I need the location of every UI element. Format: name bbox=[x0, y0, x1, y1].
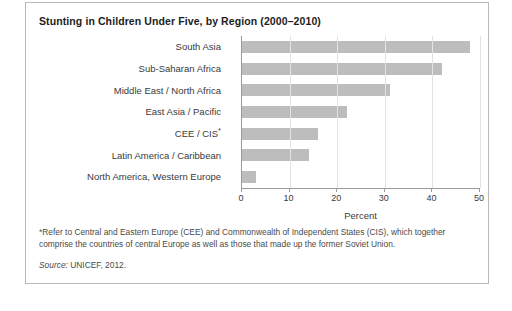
source-text: UNICEF, 2012. bbox=[70, 260, 126, 270]
category-label-cee-cis: CEE / CIS* bbox=[175, 128, 221, 139]
source-label: Source: bbox=[39, 260, 68, 270]
category-row: South Asia bbox=[39, 36, 228, 58]
x-axis-tick bbox=[431, 188, 432, 192]
source-line: Source: UNICEF, 2012. bbox=[39, 260, 469, 270]
category-row: Latin America / Caribbean bbox=[39, 144, 228, 166]
x-axis-tick-label: 50 bbox=[474, 193, 484, 203]
chart-title: Stunting in Children Under Five, by Regi… bbox=[39, 15, 321, 27]
bar-row bbox=[242, 144, 480, 166]
x-axis-title: Percent bbox=[241, 210, 480, 221]
x-axis-tick-label: 10 bbox=[284, 193, 294, 203]
footnote-text: *Refer to Central and Eastern Europe (CE… bbox=[39, 227, 469, 251]
category-label: East Asia / Pacific bbox=[145, 106, 221, 117]
bar-row bbox=[242, 79, 480, 101]
bar-row bbox=[242, 58, 480, 80]
category-label: Latin America / Caribbean bbox=[112, 150, 221, 161]
category-row: CEE / CIS* bbox=[39, 123, 228, 145]
bar-cee-cis bbox=[242, 128, 318, 140]
category-row: Sub-Saharan Africa bbox=[39, 58, 228, 80]
category-label: Middle East / North Africa bbox=[114, 85, 221, 96]
bar-sub-saharan-africa bbox=[242, 63, 442, 75]
x-axis-tick bbox=[479, 188, 480, 192]
category-row: North America, Western Europe bbox=[39, 166, 228, 188]
bar-row bbox=[242, 166, 480, 188]
notes-section: *Refer to Central and Eastern Europe (CE… bbox=[39, 227, 469, 270]
x-axis-tick bbox=[241, 188, 242, 192]
figure-container: Stunting in Children Under Five, by Regi… bbox=[25, 2, 489, 284]
bars-container bbox=[241, 36, 480, 188]
bar-middle-east-north-africa bbox=[242, 84, 390, 96]
bar-row bbox=[242, 123, 480, 145]
bar-row bbox=[242, 36, 480, 58]
x-axis-tick bbox=[289, 188, 290, 192]
gridline bbox=[480, 36, 481, 188]
x-axis-tick bbox=[336, 188, 337, 192]
category-row: Middle East / North Africa bbox=[39, 79, 228, 101]
x-axis-tick-label: 40 bbox=[426, 193, 436, 203]
bar-east-asia-pacific bbox=[242, 106, 347, 118]
bar-latin-america-caribbean bbox=[242, 149, 309, 161]
x-axis-tick-label: 30 bbox=[379, 193, 389, 203]
x-axis-tick bbox=[384, 188, 385, 192]
category-row: East Asia / Pacific bbox=[39, 101, 228, 123]
plot-area: South Asia Sub-Saharan Africa Middle Eas… bbox=[39, 36, 477, 196]
x-axis-tick-label: 20 bbox=[331, 193, 341, 203]
category-label: South Asia bbox=[176, 41, 221, 52]
x-axis-tick-label: 0 bbox=[238, 193, 243, 203]
bar-north-america-western-europe bbox=[242, 171, 256, 183]
category-label: North America, Western Europe bbox=[87, 171, 221, 182]
category-label: Sub-Saharan Africa bbox=[139, 63, 221, 74]
bar-row bbox=[242, 101, 480, 123]
category-axis-labels: South Asia Sub-Saharan Africa Middle Eas… bbox=[39, 36, 228, 188]
bar-south-asia bbox=[242, 41, 470, 53]
x-axis-line bbox=[241, 188, 480, 189]
